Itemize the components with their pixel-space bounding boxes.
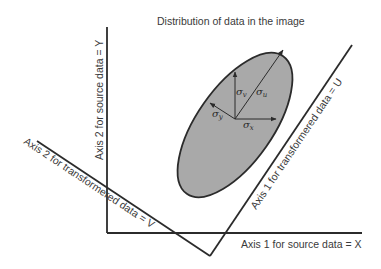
diagram-title: Distribution of data in the image: [157, 15, 305, 27]
data-distribution-ellipse: [156, 34, 315, 215]
source-x-axis-label: Axis 1 for source data = X: [241, 238, 362, 250]
diagram-svg: Distribution of data in the image σv σu …: [0, 0, 381, 269]
transformed-v-axis-label: Axis 2 for transformered data = V: [22, 135, 157, 230]
source-y-axis-label: Axis 2 for source data = Y: [93, 40, 105, 160]
pca-axes-diagram: Distribution of data in the image σv σu …: [0, 0, 381, 269]
